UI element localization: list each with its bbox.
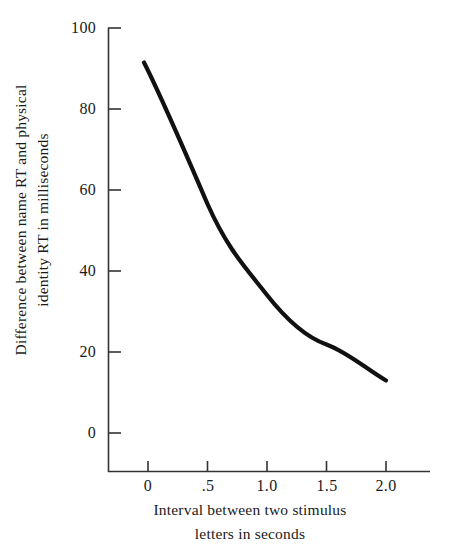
x-axis-title: Interval between two stimulus letters in… (70, 498, 430, 546)
y-tick-label-40: 40 (54, 263, 96, 279)
x-tick-label-0-5: .5 (185, 478, 231, 494)
figure-canvas: Difference between name RT and physical … (0, 0, 467, 558)
y-tick-label-60: 60 (54, 182, 96, 198)
x-tick-label-2-0: 2.0 (363, 478, 409, 494)
y-tick-marks (108, 28, 121, 433)
x-axis-title-line-2: letters in seconds (70, 522, 430, 546)
plot-area: 100 80 60 40 20 0 0 .5 1.0 1.5 2.0 (0, 0, 467, 500)
y-tick-label-100: 100 (54, 20, 96, 36)
x-tick-marks (148, 461, 386, 471)
y-tick-label-20: 20 (54, 344, 96, 360)
data-curve-name-rt-difference (144, 63, 386, 381)
y-tick-label-80: 80 (54, 101, 96, 117)
x-tick-label-0: 0 (125, 478, 171, 494)
x-axis-title-line-1: Interval between two stimulus (70, 498, 430, 522)
x-tick-label-1-0: 1.0 (244, 478, 290, 494)
x-tick-label-1-5: 1.5 (304, 478, 350, 494)
y-tick-label-0: 0 (54, 425, 96, 441)
